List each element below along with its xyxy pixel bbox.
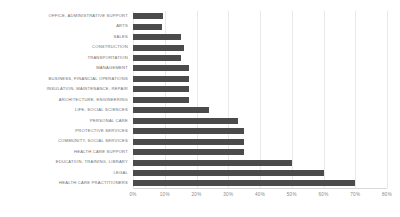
category-label: LIFE, SOCIAL SCIENCES <box>0 107 128 112</box>
bar <box>133 149 244 155</box>
gridline-80pct <box>387 11 388 188</box>
category-label: INSULATION, MAINTENANCE, REPAIR <box>0 86 128 91</box>
x-tick-label: 70% <box>350 192 360 197</box>
bar <box>133 55 181 61</box>
x-tick-label: 10% <box>160 192 170 197</box>
x-tick-label: 20% <box>191 192 201 197</box>
bar <box>133 76 189 82</box>
x-tick-label: 60% <box>318 192 328 197</box>
bar-series <box>133 11 387 188</box>
category-label: MANAGEMENT <box>0 65 128 70</box>
category-label: HEALTH CARE PRACTITIONERS <box>0 180 128 185</box>
category-label: PERSONAL CARE <box>0 118 128 123</box>
category-label: SALES <box>0 34 128 39</box>
category-label: ARTS <box>0 23 128 28</box>
category-label: OFFICE, ADMINISTRATIVE SUPPORT <box>0 13 128 18</box>
bar <box>133 170 324 176</box>
bar <box>133 118 238 124</box>
x-tick-label: 0% <box>129 192 136 197</box>
bar <box>133 34 181 40</box>
bar <box>133 13 163 19</box>
bar <box>133 160 292 166</box>
category-label: LEGAL <box>0 170 128 175</box>
bar <box>133 107 209 113</box>
category-label: HEALTH CARE SUPPORT <box>0 149 128 154</box>
category-label: ARCHITECTURE, ENGINEERING <box>0 97 128 102</box>
bar <box>133 128 244 134</box>
bar <box>133 65 189 71</box>
category-label: COMMUNITY, SOCIAL SERVICES <box>0 138 128 143</box>
category-label: EDUCATION, TRAINING, LIBRARY <box>0 159 128 164</box>
x-tick-label: 50% <box>287 192 297 197</box>
category-label: CONSTRUCTION <box>0 44 128 49</box>
bar <box>133 139 244 145</box>
bar <box>133 97 189 103</box>
x-axis-line <box>133 188 387 189</box>
bar <box>133 180 355 186</box>
x-tick-label: 80% <box>382 192 392 197</box>
x-axis-tick-labels: 0%10%20%30%40%50%60%70%80% <box>0 192 400 204</box>
bar <box>133 24 162 30</box>
plot-area <box>133 11 387 188</box>
category-label: PROTECTIVE SERVICES <box>0 128 128 133</box>
bar-chart: OFFICE, ADMINISTRATIVE SUPPORTARTSSALESC… <box>0 0 400 217</box>
bar <box>133 86 189 92</box>
category-label: TRANSPORTATION <box>0 55 128 60</box>
x-tick-label: 30% <box>223 192 233 197</box>
category-label: BUSINESS, FINANCIAL OPERATIONS <box>0 76 128 81</box>
x-tick-label: 40% <box>255 192 265 197</box>
bar <box>133 45 184 51</box>
category-axis-labels: OFFICE, ADMINISTRATIVE SUPPORTARTSSALESC… <box>0 11 128 188</box>
